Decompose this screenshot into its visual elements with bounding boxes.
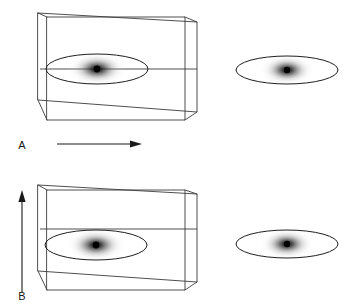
figure-root: A [0, 0, 353, 305]
box-a-connector-bottom-left [38, 100, 47, 120]
disk-a2-core-dot [284, 67, 290, 73]
disk-a-core-dot [94, 66, 101, 73]
box-a-connector-bottom-right [185, 112, 197, 120]
panel-a: A [18, 13, 338, 151]
vertical-arrow [18, 190, 25, 293]
panel-b: B [18, 185, 338, 302]
density-disk-b [45, 228, 147, 262]
density-disk-b-detached [236, 228, 338, 260]
density-disk-a-detached [236, 54, 338, 86]
box-b-connector-bottom-left [38, 271, 47, 290]
horizontal-arrow-head [130, 140, 142, 147]
diagram-canvas: A [0, 0, 353, 305]
disk-b-core-dot [93, 242, 100, 249]
panel-label-a: A [18, 139, 26, 151]
panel-label-b: B [18, 290, 25, 302]
vertical-arrow-head [18, 190, 25, 202]
box-b-connector-bottom-right [185, 282, 197, 290]
horizontal-arrow [57, 140, 142, 147]
disk-b2-core-dot [284, 241, 290, 247]
